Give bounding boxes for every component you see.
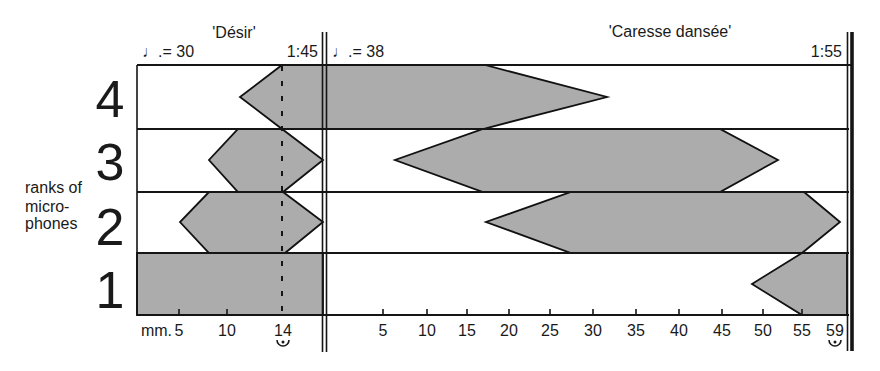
tempo-caresse: ♩.= 38 xyxy=(332,43,384,60)
duration-desir: 1:45 xyxy=(287,43,318,60)
x-tick-label: 25 xyxy=(541,322,559,339)
rank-label-3: 3 xyxy=(96,133,125,191)
rank-1-envelope-desir xyxy=(137,253,323,315)
x-tick-label: 15 xyxy=(458,322,476,339)
x-tick-label: 55 xyxy=(793,322,811,339)
y-label-line-1: ranks of xyxy=(25,179,82,196)
x-tick-label: 20 xyxy=(500,322,518,339)
y-label-line-2: micro- xyxy=(25,198,69,215)
x-tick-label: 59 xyxy=(826,322,844,339)
final-barline xyxy=(848,32,853,351)
rank-label-2: 2 xyxy=(96,198,125,256)
rank-2-envelope-caresse xyxy=(486,192,840,253)
section-title-caresse: 'Caresse dansée' xyxy=(609,23,732,40)
x-tick-label: 50 xyxy=(754,322,772,339)
rank-2-envelope-desir xyxy=(180,192,323,253)
x-tick-label: 40 xyxy=(670,322,688,339)
rank-4-envelope-desir-caresse xyxy=(240,65,607,129)
rank-envelopes xyxy=(137,65,847,315)
y-label-line-3: phones xyxy=(25,215,78,232)
rank-label-4: 4 xyxy=(96,70,125,128)
tempo-desir: ♩.= 30 xyxy=(142,43,194,60)
x-tick-label: 30 xyxy=(584,322,602,339)
duration-caresse: 1:55 xyxy=(811,43,842,60)
x-tick-label: 10 xyxy=(218,322,236,339)
y-axis-label: ranks of micro- phones xyxy=(25,179,82,232)
rank-3-envelope-desir xyxy=(209,129,323,192)
fermata-icon xyxy=(829,340,841,346)
rank-3-envelope-caresse xyxy=(395,129,778,192)
x-tick-label: 5 xyxy=(175,322,184,339)
x-tick-label: 5 xyxy=(379,322,388,339)
rank-1-envelope-caresse xyxy=(752,253,847,315)
x-tick-label: 10 xyxy=(418,322,436,339)
x-tick-label: 35 xyxy=(627,322,645,339)
fermata-icon xyxy=(277,340,289,346)
x-axis-unit-label: mm. xyxy=(141,322,172,339)
x-tick-label: 14 xyxy=(274,322,292,339)
x-tick-label: 45 xyxy=(713,322,731,339)
section-title-desir: 'Désir' xyxy=(212,24,255,41)
microphone-ranks-chart: 5mm.101451015202530354045505559 'Désir' … xyxy=(0,0,880,371)
rank-label-1: 1 xyxy=(96,261,125,319)
